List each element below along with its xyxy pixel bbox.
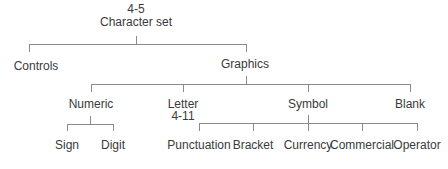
controls-drop [29, 44, 30, 52]
node-controls: Controls [14, 60, 59, 73]
node-letter-code: 4-11 [171, 110, 194, 123]
blank-drop [410, 84, 411, 92]
symbol-drop [308, 84, 309, 92]
commercial-drop [362, 123, 363, 131]
currency-drop [308, 123, 309, 131]
node-commercial: Commercial [330, 139, 394, 152]
punctuation-drop [199, 123, 200, 131]
operator-drop [417, 123, 418, 131]
node-blank: Blank [395, 98, 425, 111]
numeric-bar [67, 124, 114, 125]
node-graphics: Graphics [221, 58, 269, 71]
digit-drop [113, 124, 114, 131]
letter-drop [183, 84, 184, 92]
node-sign: Sign [55, 139, 79, 152]
bracket-drop [253, 123, 254, 131]
root-stem [136, 36, 137, 44]
sign-drop [67, 124, 68, 131]
node-currency: Currency [284, 139, 333, 152]
level2-bar [91, 84, 411, 85]
node-numeric: Numeric [69, 98, 114, 111]
numeric-stem [90, 116, 91, 124]
numeric-drop [91, 84, 92, 92]
graphics-drop [246, 44, 247, 52]
node-operator: Operator [393, 139, 440, 152]
node-punctuation: Punctuation [167, 139, 230, 152]
graphics-stem [246, 76, 247, 84]
level1-bar [29, 44, 246, 45]
root-label: Character set [100, 16, 172, 29]
symbol-stem [308, 115, 309, 123]
node-digit: Digit [101, 139, 125, 152]
node-bracket: Bracket [233, 139, 274, 152]
node-symbol: Symbol [288, 98, 328, 111]
